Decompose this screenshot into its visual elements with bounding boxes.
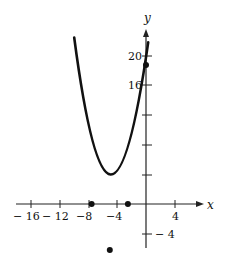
y-axis-label: y xyxy=(143,11,151,25)
x-tick-label: −4 xyxy=(106,210,122,223)
y-tick-label: − 4 xyxy=(155,228,175,241)
x-tick-label: −8 xyxy=(76,210,92,223)
x-axis-label: x xyxy=(207,198,214,212)
x-tick-label: − 16 xyxy=(13,210,40,223)
x-intercept-point xyxy=(125,201,131,207)
y-ticks xyxy=(142,56,152,234)
x-axis-arrow-icon xyxy=(196,201,204,207)
x-tick-label: − 12 xyxy=(42,210,69,223)
parabola-chart: x y − 16 − 12 −8 −4 4 20 16 − 4 xyxy=(0,0,227,261)
vertex-point xyxy=(107,247,113,253)
y-tick-label: 20 xyxy=(128,50,142,63)
x-tick-label: 4 xyxy=(172,210,179,223)
x-intercept-point xyxy=(89,201,95,207)
y-axis-arrow-icon xyxy=(143,29,149,37)
y-intercept-point xyxy=(143,62,149,68)
